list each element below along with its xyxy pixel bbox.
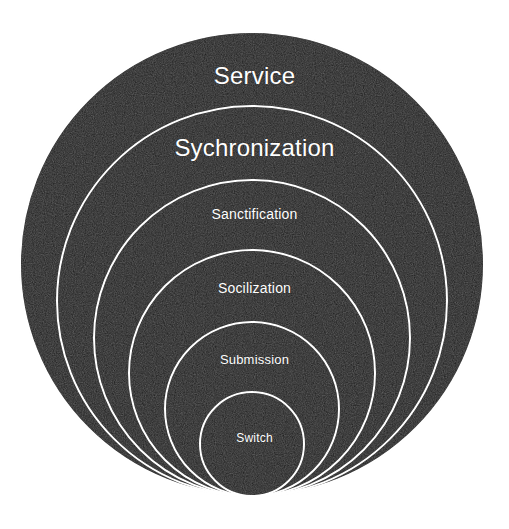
nested-circles-diagram: Service Sychronization Sanctification So… [0,0,509,529]
ring-label-sanctification: Sanctification [0,206,509,222]
ring-label-socilization: Socilization [0,280,509,296]
ring-label-service: Service [0,62,509,90]
ring-label-switch: Switch [0,431,509,445]
circle-stack [20,32,484,496]
ring-label-sychronization: Sychronization [0,134,509,162]
ring-label-submission: Submission [0,352,509,367]
